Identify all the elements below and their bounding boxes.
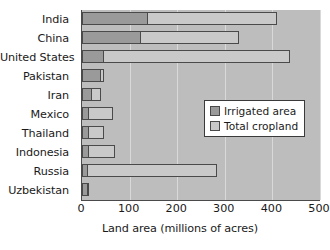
x-axis-tick-labels: 0100200300400500 <box>81 202 319 218</box>
bar-row <box>82 67 320 86</box>
bar-irrigated-area <box>82 12 148 25</box>
category-axis: IndiaChinaUnited StatesPakistanIranMexic… <box>0 10 74 200</box>
gridline <box>320 10 321 200</box>
bar-row <box>82 143 320 162</box>
chart-container: IndiaChinaUnited StatesPakistanIranMexic… <box>0 0 330 250</box>
bar-irrigated-area <box>82 88 92 101</box>
x-tick-label: 0 <box>77 202 84 215</box>
x-axis-title: Land area (millions of acres) <box>0 222 330 235</box>
bar-row <box>82 48 320 67</box>
x-tick-label: 500 <box>308 202 329 215</box>
legend-label: Total cropland <box>224 120 298 132</box>
bar-irrigated-area <box>82 107 89 120</box>
bar-row <box>82 29 320 48</box>
legend-swatch-icon <box>210 106 220 116</box>
x-axis-title-text: Land area (millions of acres) <box>102 222 258 235</box>
category-label: Indonesia <box>0 143 74 162</box>
category-label: Russia <box>0 162 74 181</box>
bar-irrigated-area <box>82 69 101 82</box>
x-tick-label: 300 <box>213 202 234 215</box>
bar-irrigated-area <box>82 126 89 139</box>
bar-total-cropland <box>82 164 217 177</box>
legend-label: Irrigated area <box>224 105 296 117</box>
category-label: Uzbekistan <box>0 181 74 200</box>
bar-irrigated-area <box>82 183 88 196</box>
bar-row <box>82 162 320 181</box>
category-label: Mexico <box>0 105 74 124</box>
bar-row <box>82 10 320 29</box>
bar-total-cropland <box>82 50 290 63</box>
x-tick-label: 400 <box>261 202 282 215</box>
chart-legend: Irrigated areaTotal cropland <box>204 100 305 137</box>
legend-entry: Irrigated area <box>210 105 298 117</box>
category-label: India <box>0 10 74 29</box>
x-tick-label: 200 <box>166 202 187 215</box>
category-label: United States <box>0 48 74 67</box>
bar-irrigated-area <box>82 50 104 63</box>
category-label: China <box>0 29 74 48</box>
bar-irrigated-area <box>82 31 141 44</box>
bar-irrigated-area <box>82 164 88 177</box>
legend-entry: Total cropland <box>210 120 298 132</box>
category-label: Pakistan <box>0 67 74 86</box>
legend-swatch-icon <box>210 121 220 131</box>
bar-row <box>82 181 320 200</box>
category-label: Thailand <box>0 124 74 143</box>
bar-irrigated-area <box>82 145 89 158</box>
x-tick-label: 100 <box>118 202 139 215</box>
category-label: Iran <box>0 86 74 105</box>
